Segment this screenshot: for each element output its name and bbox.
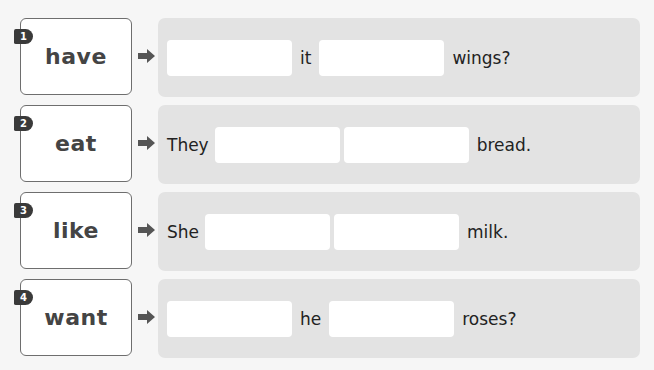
- arrow-right-icon: [138, 48, 156, 64]
- sentence-text-middle: he: [300, 309, 321, 329]
- word-card: have: [20, 18, 132, 95]
- prompt-word: want: [44, 305, 107, 330]
- arrow-right-icon: [138, 309, 156, 325]
- sentence-text-end: milk.: [467, 222, 508, 242]
- answer-blank-2[interactable]: [329, 301, 454, 337]
- item-number-badge: 1: [14, 29, 33, 44]
- word-card: want: [20, 279, 132, 356]
- sentence-text-end: wings?: [452, 48, 510, 68]
- sentence-panel: it wings?: [158, 18, 640, 97]
- sentence-text-lead: They: [167, 135, 209, 155]
- item-number-badge: 2: [14, 116, 33, 131]
- answer-blank-1[interactable]: [167, 40, 292, 76]
- sentence-text-end: bread.: [477, 135, 531, 155]
- answer-blank-2[interactable]: [319, 40, 444, 76]
- item-number-badge: 4: [14, 290, 33, 305]
- sentence-panel: She milk.: [158, 192, 640, 271]
- sentence-text-end: roses?: [462, 309, 516, 329]
- exercise-row-1: have 1 it wings?: [0, 18, 654, 97]
- sentence-text-lead: She: [167, 222, 199, 242]
- answer-blank-2[interactable]: [344, 127, 469, 163]
- arrow-right-icon: [138, 135, 156, 151]
- exercise-row-2: eat 2 They bread.: [0, 105, 654, 184]
- sentence-panel: he roses?: [158, 279, 640, 358]
- answer-blank-1[interactable]: [215, 127, 340, 163]
- answer-blank-1[interactable]: [167, 301, 292, 337]
- prompt-word: have: [45, 44, 107, 69]
- sentence-text-middle: it: [300, 48, 311, 68]
- prompt-word: eat: [55, 131, 97, 156]
- word-card: like: [20, 192, 132, 269]
- answer-blank-2[interactable]: [334, 214, 459, 250]
- prompt-word: like: [53, 218, 99, 243]
- answer-blank-1[interactable]: [205, 214, 330, 250]
- exercise-row-3: like 3 She milk.: [0, 192, 654, 271]
- item-number-badge: 3: [14, 203, 33, 218]
- word-card: eat: [20, 105, 132, 182]
- exercise-row-4: want 4 he roses?: [0, 279, 654, 358]
- arrow-right-icon: [138, 222, 156, 238]
- sentence-panel: They bread.: [158, 105, 640, 184]
